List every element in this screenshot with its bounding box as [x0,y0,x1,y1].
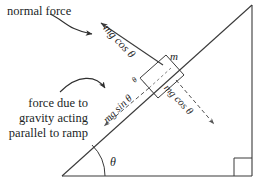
normal-force-text-label: normal force [7,4,71,19]
gravity-parallel-text-label: force due to gravity acting parallel to … [4,96,88,140]
ramp-angle-arc [92,145,105,176]
ramp-hypotenuse-line [62,5,252,176]
right-angle-marker [234,158,252,176]
ramp-triangle [62,5,252,176]
ramp-angle-label: θ [110,155,116,169]
gravity-pointer-arrow [60,78,105,92]
block-mass-label: m [170,50,178,63]
physics-diagram-inclined-plane: normal force force due to gravity acting… [0,0,256,187]
